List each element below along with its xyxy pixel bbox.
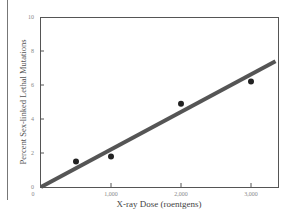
chart: 0246810 01,0002,0003,000 X-ray Dose (roe…: [0, 0, 296, 215]
x-tick-label: 3,000: [244, 191, 258, 197]
y-tick-label: 6: [31, 82, 34, 88]
fit-line: [41, 61, 276, 187]
x-tick-label: 1,000: [104, 191, 118, 197]
data-point: [178, 101, 184, 107]
y-axis-ticks: 0246810: [28, 14, 44, 190]
data-point: [248, 79, 254, 85]
y-tick-label: 0: [31, 184, 34, 190]
data-point: [73, 159, 79, 165]
x-tick-label: 0: [32, 191, 35, 197]
y-tick-label: 4: [31, 116, 34, 122]
x-axis-title: X-ray Dose (roentgens): [117, 199, 202, 209]
plot-series: [41, 61, 276, 187]
data-point: [108, 153, 114, 159]
x-tick-label: 2,000: [174, 191, 188, 197]
y-axis-title: Percent Sex-linked Lethal Mutations: [18, 40, 28, 165]
y-tick-label: 8: [31, 48, 34, 54]
y-tick-label: 10: [28, 14, 34, 20]
y-tick-label: 2: [31, 150, 34, 156]
x-axis-ticks: 01,0002,0003,000: [32, 183, 258, 197]
